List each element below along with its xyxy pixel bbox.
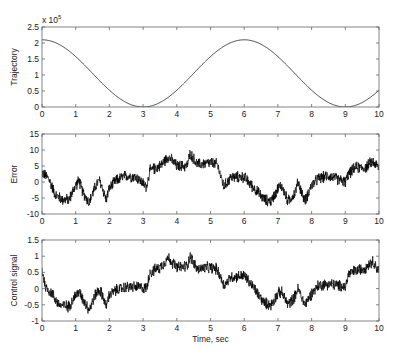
x-tick-label: 6 (242, 216, 247, 226)
y-tick-label: 2 (34, 38, 39, 48)
y-axis-label: Control signal (9, 254, 19, 306)
x-tick-label: 1 (73, 323, 78, 333)
y-tick-label: 0.5 (27, 86, 39, 96)
x-tick-label: 8 (309, 216, 314, 226)
y-axis-label: Trajectory (9, 48, 19, 86)
y-axis-label: Error (9, 164, 19, 183)
error-line (42, 150, 379, 206)
x-tick-label: 1 (73, 109, 78, 119)
axes-frame (42, 27, 379, 107)
control_signal-line (42, 252, 379, 313)
y-tick-label: 0 (34, 284, 39, 294)
y-tick-label: 2.5 (27, 22, 39, 32)
y-tick-label: 0.5 (27, 267, 39, 277)
trajectory-line (42, 40, 379, 107)
y-multiplier-label: x 105 (42, 14, 62, 25)
axes-frame (42, 134, 379, 214)
y-tick-label: -0.5 (24, 300, 39, 310)
y-tick-label: -10 (27, 209, 40, 219)
x-tick-label: 3 (141, 109, 146, 119)
y-tick-label: 0 (34, 102, 39, 112)
x-tick-label: 10 (374, 323, 384, 333)
x-tick-label: 9 (343, 216, 348, 226)
x-tick-label: 2 (107, 216, 112, 226)
x-tick-label: 8 (309, 323, 314, 333)
y-tick-label: 1.5 (27, 235, 39, 245)
x-tick-label: 7 (276, 323, 281, 333)
y-tick-label: 5 (34, 161, 39, 171)
x-tick-label: 5 (208, 323, 213, 333)
trajectory-panel: 01234567891000.511.522.5Trajectoryx 105 (9, 14, 384, 119)
y-tick-label: 1.5 (27, 54, 39, 64)
x-tick-label: 0 (40, 109, 45, 119)
x-tick-label: 9 (343, 323, 348, 333)
x-tick-label: 6 (242, 109, 247, 119)
control-signal-panel: 012345678910-1-0.500.511.5Control signal… (9, 235, 384, 344)
y-tick-label: -1 (31, 316, 39, 326)
x-tick-label: 4 (174, 216, 179, 226)
x-tick-label: 2 (107, 109, 112, 119)
x-tick-label: 5 (208, 216, 213, 226)
x-tick-label: 7 (276, 109, 281, 119)
axes-frame (42, 240, 379, 321)
x-tick-label: 3 (141, 323, 146, 333)
y-tick-label: 1 (34, 251, 39, 261)
x-tick-label: 10 (374, 109, 384, 119)
x-tick-label: 4 (174, 109, 179, 119)
x-tick-label: 0 (40, 323, 45, 333)
x-tick-label: 10 (374, 216, 384, 226)
x-tick-label: 5 (208, 109, 213, 119)
chart-figure: 01234567891000.511.522.5Trajectoryx 105 … (0, 0, 398, 355)
x-tick-label: 0 (40, 216, 45, 226)
x-tick-label: 6 (242, 323, 247, 333)
y-tick-label: 10 (30, 145, 40, 155)
x-tick-label: 1 (73, 216, 78, 226)
y-tick-label: 15 (30, 129, 40, 139)
x-axis-label: Time, sec (192, 334, 229, 344)
x-tick-label: 2 (107, 323, 112, 333)
y-tick-label: 0 (34, 177, 39, 187)
y-tick-label: 1 (34, 70, 39, 80)
y-tick-label: -5 (31, 193, 39, 203)
x-tick-label: 7 (276, 216, 281, 226)
x-tick-label: 8 (309, 109, 314, 119)
x-tick-label: 9 (343, 109, 348, 119)
error-panel: 012345678910-10-5051015Error (9, 129, 384, 226)
x-tick-label: 3 (141, 216, 146, 226)
x-tick-label: 4 (174, 323, 179, 333)
